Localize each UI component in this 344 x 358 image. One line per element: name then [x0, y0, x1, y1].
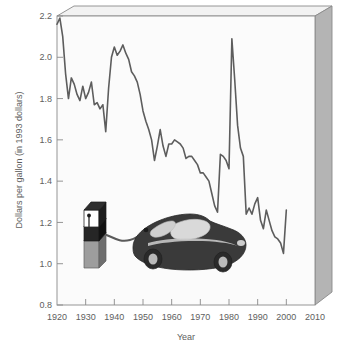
y-tick-label-2.0: 2.0 — [39, 52, 52, 62]
chart-figure: 0.81.01.21.41.61.82.02.2 192019301940195… — [0, 0, 344, 358]
y-tick-label-1.8: 1.8 — [39, 94, 52, 104]
x-tick-label-1950: 1950 — [133, 312, 153, 322]
x-tick-label-1970: 1970 — [190, 312, 210, 322]
pump-base-front — [84, 240, 99, 268]
x-tick-label-1920: 1920 — [47, 312, 67, 322]
y-tick-label-1.2: 1.2 — [39, 218, 52, 228]
y-tick-label-1.0: 1.0 — [39, 259, 52, 269]
car-wheel-rear-hub — [219, 257, 228, 268]
car-headlight — [237, 240, 245, 246]
x-tick-label-1960: 1960 — [162, 312, 182, 322]
gas-pump — [84, 202, 106, 268]
y-tick-label-2.2: 2.2 — [39, 11, 52, 21]
pump-nozzle-head — [87, 214, 91, 218]
car-wheel-front-hub — [149, 254, 158, 265]
y-tick-label-0.8: 0.8 — [39, 300, 52, 310]
x-tick-label-1980: 1980 — [219, 312, 239, 322]
x-tick-label-1990: 1990 — [248, 312, 268, 322]
x-tick-label-1930: 1930 — [76, 312, 96, 322]
y-tick-label-1.6: 1.6 — [39, 135, 52, 145]
pump-body-front — [84, 226, 99, 241]
x-axis-title: Year — [177, 332, 195, 342]
y-axis-title: Dollars per gallon (in 1993 dollars) — [14, 91, 24, 228]
x-tick-label-2000: 2000 — [276, 312, 296, 322]
frame-top-face — [57, 6, 332, 16]
x-tick-label-1940: 1940 — [104, 312, 124, 322]
car-fuel-port — [144, 228, 149, 233]
y-tick-label-1.4: 1.4 — [39, 176, 52, 186]
pump-display-front — [84, 210, 99, 227]
x-tick-label-2010: 2010 — [305, 312, 325, 322]
frame-right-face — [315, 6, 332, 305]
gasoline-price-line-chart: 0.81.01.21.41.61.82.02.2 192019301940195… — [0, 0, 344, 358]
